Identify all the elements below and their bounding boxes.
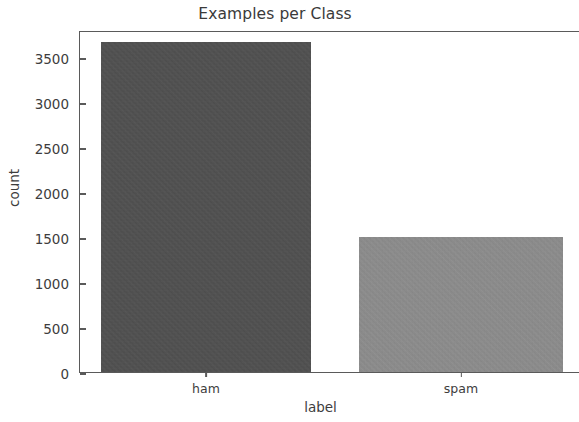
y-axis-tick-label: 1500: [35, 231, 80, 247]
y-axis-tick: 0: [60, 366, 80, 382]
y-axis-tick-label: 1000: [35, 276, 80, 292]
y-axis-tick-label: 3000: [35, 96, 80, 112]
y-axis-tick-mark: [80, 373, 86, 374]
x-axis-tick-mark: [205, 372, 206, 377]
y-axis-tick: 500: [43, 321, 80, 337]
y-axis-tick-mark: [80, 103, 86, 104]
y-axis-tick: 2000: [35, 186, 80, 202]
y-axis-tick-label: 500: [43, 321, 80, 337]
y-axis-tick-label: 2500: [35, 141, 80, 157]
y-axis-tick-label: 0: [60, 366, 80, 382]
x-axis-tick-mark: [460, 372, 461, 377]
y-axis-label: count: [6, 158, 22, 218]
y-axis-tick: 1000: [35, 276, 80, 292]
x-axis-label: label: [79, 399, 562, 415]
y-axis-tick-mark: [80, 238, 86, 239]
y-axis-tick-mark: [80, 193, 86, 194]
y-axis-tick-label: 2000: [35, 186, 80, 202]
x-axis-tick: spam: [444, 372, 478, 396]
y-axis-tick-mark: [80, 328, 86, 329]
y-axis-tick: 1500: [35, 231, 80, 247]
x-axis-tick: ham: [192, 372, 220, 396]
chart-title: Examples per Class: [0, 5, 575, 23]
y-axis-tick-mark: [80, 148, 86, 149]
bar-ham: [101, 42, 311, 372]
bar-spam: [359, 237, 563, 372]
y-axis-tick-mark: [80, 283, 86, 284]
y-axis-tick: 2500: [35, 141, 80, 157]
plot-area: 0500100015002000250030003500hamspam: [79, 31, 579, 373]
y-axis-tick-label: 3500: [35, 51, 80, 67]
y-axis-tick: 3500: [35, 51, 80, 67]
y-axis-tick-mark: [80, 58, 86, 59]
y-axis-tick: 3000: [35, 96, 80, 112]
